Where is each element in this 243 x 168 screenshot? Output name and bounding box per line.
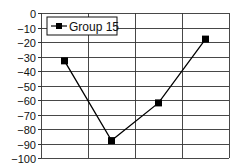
data-point-marker (61, 57, 68, 64)
y-tick-label: −40 (17, 66, 36, 78)
y-axis: 0−10−20−30−40−50−60−70−80−90−100 (11, 8, 41, 165)
data-point-marker (202, 36, 209, 43)
legend-marker-icon (56, 23, 62, 29)
y-tick-label: −10 (17, 23, 36, 35)
y-tick-label: −70 (17, 110, 36, 122)
line-chart: 0−10−20−30−40−50−60−70−80−90−100 Group 1… (0, 0, 243, 168)
y-tick-label: −100 (11, 153, 36, 165)
legend-label: Group 15 (69, 20, 119, 34)
y-tick-label: −90 (17, 139, 36, 151)
data-point-marker (155, 99, 162, 106)
y-tick-label: −60 (17, 95, 36, 107)
y-tick-label: 0 (30, 8, 36, 20)
data-point-marker (108, 137, 115, 144)
data-series-group-15 (61, 36, 209, 145)
y-tick-label: −30 (17, 52, 36, 64)
y-tick-label: −20 (17, 37, 36, 49)
y-tick-label: −50 (17, 81, 36, 93)
y-tick-label: −80 (17, 124, 36, 136)
series-line (65, 39, 206, 141)
legend: Group 15 (47, 17, 119, 35)
